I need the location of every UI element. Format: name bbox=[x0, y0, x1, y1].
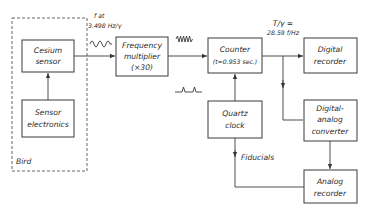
sensor-electronics-label-1: Sensor bbox=[35, 108, 62, 117]
counter-label-2: (t=0.953 sec.) bbox=[213, 58, 258, 65]
sensor-signal-label-1: f at bbox=[94, 12, 105, 19]
digital-analog-converter-block: Digital- analog converter bbox=[304, 100, 357, 141]
analog-recorder-label-1: Analog bbox=[316, 177, 343, 186]
sensor-electronics-block: Sensor electronics bbox=[22, 100, 74, 137]
block-diagram: Bird Cesium sensor Sensor electronics Fr… bbox=[0, 0, 370, 213]
cesium-sensor-label-1: Cesium bbox=[34, 46, 62, 55]
dac-label-2: analog bbox=[317, 115, 343, 124]
quartz-clock-label-1: Quartz bbox=[222, 109, 249, 118]
freq-mult-label-3: (×30) bbox=[131, 63, 153, 72]
edge-clock-to-analog-recorder bbox=[235, 138, 304, 187]
pulse-train-icon bbox=[175, 87, 202, 92]
high-frequency-wave-icon bbox=[176, 36, 193, 42]
cesium-sensor-block: Cesium sensor bbox=[22, 40, 74, 72]
digital-recorder-label-1: Digital bbox=[318, 45, 344, 54]
bird-label: Bird bbox=[16, 157, 31, 166]
digital-recorder-block: Digital recorder bbox=[304, 38, 357, 73]
analog-recorder-block: Analog recorder bbox=[304, 170, 357, 203]
edge-counter-to-dac bbox=[283, 56, 303, 120]
dac-label-1: Digital- bbox=[316, 104, 344, 113]
digital-recorder-label-2: recorder bbox=[314, 57, 347, 66]
freq-mult-label-2: multiplier bbox=[124, 52, 161, 61]
frequency-multiplier-block: Frequency multiplier (×30) bbox=[116, 37, 168, 76]
sensor-electronics-label-2: electronics bbox=[27, 120, 68, 129]
counter-block: Counter (t=0.953 sec.) bbox=[208, 38, 262, 73]
counter-label-1: Counter bbox=[220, 45, 251, 54]
connections bbox=[48, 56, 330, 187]
fiducials-label: Fiducials bbox=[241, 153, 274, 162]
quartz-clock-label-2: clock bbox=[225, 121, 245, 130]
sensor-signal-label-2: 3.498 Hz/γ bbox=[88, 22, 122, 30]
freq-mult-label-1: Frequency bbox=[122, 41, 162, 50]
quartz-clock-block: Quartz clock bbox=[208, 101, 262, 138]
dac-label-3: converter bbox=[312, 127, 350, 136]
counter-output-label-2: 28.59 f/Hz bbox=[267, 29, 300, 36]
cesium-sensor-label-2: sensor bbox=[35, 57, 61, 66]
counter-output-label-1: T/γ = bbox=[273, 19, 293, 28]
sine-wave-icon bbox=[90, 41, 112, 47]
analog-recorder-label-2: recorder bbox=[314, 189, 347, 198]
